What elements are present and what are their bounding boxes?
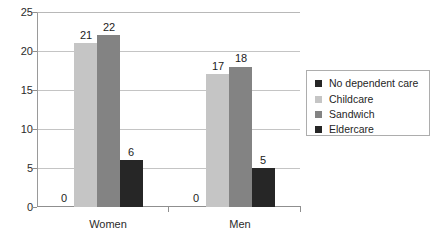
legend-swatch-icon-sandwich <box>315 111 322 118</box>
bar-value-label-women-childcare: 21 <box>78 30 94 41</box>
legend-item-childcare[interactable]: Childcare <box>315 92 373 107</box>
bar-chart: 25 20 15 10 5 0 0 21 22 6 Women 0 17 18 … <box>0 0 436 245</box>
legend-label-sandwich: Sandwich <box>329 109 375 120</box>
legend-label-no-dependent-care: No dependent care <box>329 78 418 89</box>
y-tick-label-0: 0 <box>7 202 33 213</box>
bar-value-label-women-eldercare: 6 <box>124 147 138 158</box>
bar-value-label-men-sandwich: 18 <box>233 53 249 64</box>
bar-women-sandwich <box>97 35 120 207</box>
y-tick-mark-10 <box>32 129 37 130</box>
bar-men-sandwich <box>229 67 252 207</box>
bar-value-label-men-no-dependent-care: 0 <box>189 193 203 204</box>
bar-women-childcare <box>74 43 97 207</box>
y-tick-mark-25 <box>32 12 37 13</box>
legend-item-no-dependent-care[interactable]: No dependent care <box>315 76 418 91</box>
y-tick-mark-5 <box>32 168 37 169</box>
bar-value-label-women-sandwich: 22 <box>101 22 117 33</box>
legend-item-sandwich[interactable]: Sandwich <box>315 107 375 122</box>
legend: No dependent care Childcare Sandwich Eld… <box>306 70 430 136</box>
y-tick-label-15: 15 <box>7 85 33 96</box>
bar-value-label-men-eldercare: 5 <box>256 155 270 166</box>
x-tick-mark-group-end <box>300 207 301 212</box>
legend-swatch-icon-eldercare <box>315 126 322 133</box>
legend-swatch-icon-childcare <box>315 96 322 103</box>
legend-label-childcare: Childcare <box>329 94 373 105</box>
bar-men-eldercare <box>252 168 275 207</box>
legend-label-eldercare: Eldercare <box>329 124 374 135</box>
x-tick-mark-group-divider <box>168 207 169 212</box>
y-tick-label-20: 20 <box>7 46 33 57</box>
y-tick-mark-20 <box>32 51 37 52</box>
y-tick-label-5: 5 <box>7 163 33 174</box>
bar-women-eldercare <box>120 160 143 207</box>
y-tick-label-25: 25 <box>7 7 33 18</box>
bar-value-label-men-childcare: 17 <box>210 61 226 72</box>
x-axis-category-label-men: Men <box>192 218 288 230</box>
legend-swatch-icon-no-dependent-care <box>315 80 322 87</box>
x-axis-category-label-women: Women <box>60 218 156 230</box>
legend-item-eldercare[interactable]: Eldercare <box>315 122 374 137</box>
y-tick-mark-0 <box>32 207 37 208</box>
bar-men-childcare <box>206 74 229 207</box>
y-tick-label-10: 10 <box>7 124 33 135</box>
y-tick-mark-15 <box>32 90 37 91</box>
bar-value-label-women-no-dependent-care: 0 <box>57 193 71 204</box>
